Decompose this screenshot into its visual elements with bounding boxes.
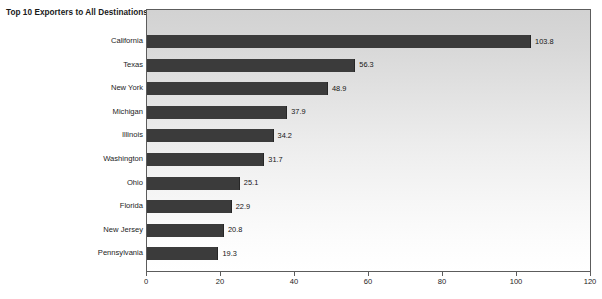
bar-pennsylvania <box>147 247 218 260</box>
bar-value-label: 37.9 <box>291 105 305 118</box>
bar-row: 19.3 <box>147 242 590 266</box>
bar-illinois <box>147 129 274 142</box>
category-label-ohio: Ohio <box>127 176 143 189</box>
category-label-michigan: Michigan <box>113 105 143 118</box>
category-label-new-jersey: New Jersey <box>103 223 143 236</box>
x-axis-tick <box>368 272 369 276</box>
x-axis-tick <box>442 272 443 276</box>
bar-row: 25.1 <box>147 172 590 196</box>
bar-new-york <box>147 82 328 95</box>
bar-row: 103.8 <box>147 30 590 54</box>
x-axis-tick-label: 40 <box>290 277 298 286</box>
bar-value-label: 19.3 <box>222 247 236 260</box>
bar-california <box>147 35 531 48</box>
bar-value-label: 48.9 <box>332 82 346 95</box>
category-label-texas: Texas <box>123 58 143 71</box>
bar-row: 56.3 <box>147 54 590 78</box>
category-label-california: California <box>111 34 143 47</box>
bar-row: 20.8 <box>147 219 590 243</box>
x-axis-tick-label: 80 <box>438 277 446 286</box>
x-axis-tick <box>516 272 517 276</box>
x-axis-tick-label: 20 <box>216 277 224 286</box>
bar-washington <box>147 153 264 166</box>
bar-value-label: 22.9 <box>236 200 250 213</box>
bar-row: 37.9 <box>147 101 590 125</box>
x-axis-tick <box>146 272 147 276</box>
x-axis-tick-label: 0 <box>144 277 148 286</box>
chart-title: Top 10 Exporters to All Destinations <box>6 8 148 17</box>
plot-area: 103.856.348.937.934.231.725.122.920.819.… <box>146 9 591 272</box>
x-axis-tick-label: 60 <box>364 277 372 286</box>
category-label-new-york: New York <box>111 81 143 94</box>
category-label-washington: Washington <box>103 152 143 165</box>
x-axis-tick <box>590 272 591 276</box>
bar-value-label: 20.8 <box>228 223 242 236</box>
x-axis: 020406080100120 <box>146 272 591 277</box>
bar-florida <box>147 200 232 213</box>
bar-row: 22.9 <box>147 195 590 219</box>
x-axis-tick <box>294 272 295 276</box>
bar-value-label: 103.8 <box>535 35 554 48</box>
bar-value-label: 56.3 <box>359 58 373 71</box>
category-label-pennsylvania: Pennsylvania <box>98 246 143 259</box>
bar-row: 34.2 <box>147 124 590 148</box>
bar-row: 48.9 <box>147 77 590 101</box>
x-axis-tick <box>220 272 221 276</box>
bar-michigan <box>147 106 287 119</box>
bar-value-label: 31.7 <box>268 153 282 166</box>
x-axis-tick-label: 120 <box>584 277 597 286</box>
bar-value-label: 25.1 <box>244 176 258 189</box>
x-axis-tick-label: 100 <box>510 277 523 286</box>
bar-texas <box>147 59 355 72</box>
category-label-illinois: Illinois <box>122 128 143 141</box>
bar-new-jersey <box>147 224 224 237</box>
bar-chart: Top 10 Exporters to All Destinations 103… <box>0 0 602 299</box>
bar-row: 31.7 <box>147 148 590 172</box>
category-label-florida: Florida <box>120 199 143 212</box>
bar-ohio <box>147 177 240 190</box>
bar-value-label: 34.2 <box>278 129 292 142</box>
